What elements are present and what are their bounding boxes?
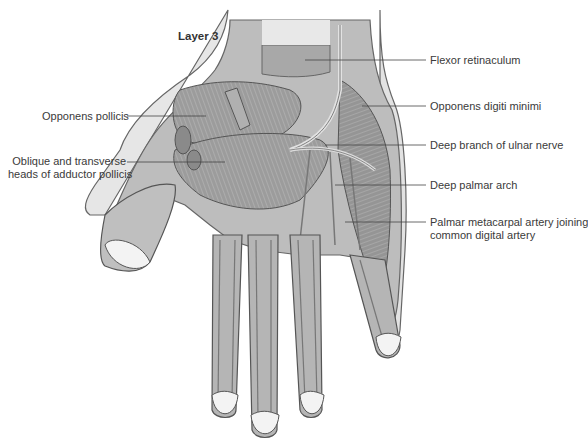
label-palmar-metacarpal-line2: common digital artery xyxy=(430,229,588,242)
label-adductor-pollicis-line1: Oblique and transverse xyxy=(8,155,126,168)
label-adductor-pollicis-line2: heads of adductor pollicis xyxy=(8,168,126,181)
label-adductor-pollicis: Oblique and transverse heads of adductor… xyxy=(8,155,126,181)
cut-tendon xyxy=(187,150,201,170)
label-deep-branch-ulnar-nerve: Deep branch of ulnar nerve xyxy=(430,139,563,152)
hand-anatomy-figure: Layer 3 Opponens pollicis Oblique and tr… xyxy=(0,0,588,446)
finger-middle xyxy=(248,235,279,438)
label-palmar-metacarpal-artery: Palmar metacarpal artery joining common … xyxy=(430,216,588,242)
label-opponens-pollicis: Opponens pollicis xyxy=(42,110,129,123)
cut-tendon xyxy=(175,126,191,154)
flexor-retinaculum-shape xyxy=(262,45,330,77)
finger-ring xyxy=(290,235,324,418)
figure-title: Layer 3 xyxy=(178,30,218,42)
label-flexor-retinaculum: Flexor retinaculum xyxy=(430,54,520,67)
finger-index xyxy=(212,235,242,418)
label-deep-palmar-arch: Deep palmar arch xyxy=(430,179,517,192)
label-opponens-digiti-minimi: Opponens digiti minimi xyxy=(430,100,541,113)
label-palmar-metacarpal-line1: Palmar metacarpal artery joining xyxy=(430,216,588,229)
wrist-skin xyxy=(262,20,330,45)
